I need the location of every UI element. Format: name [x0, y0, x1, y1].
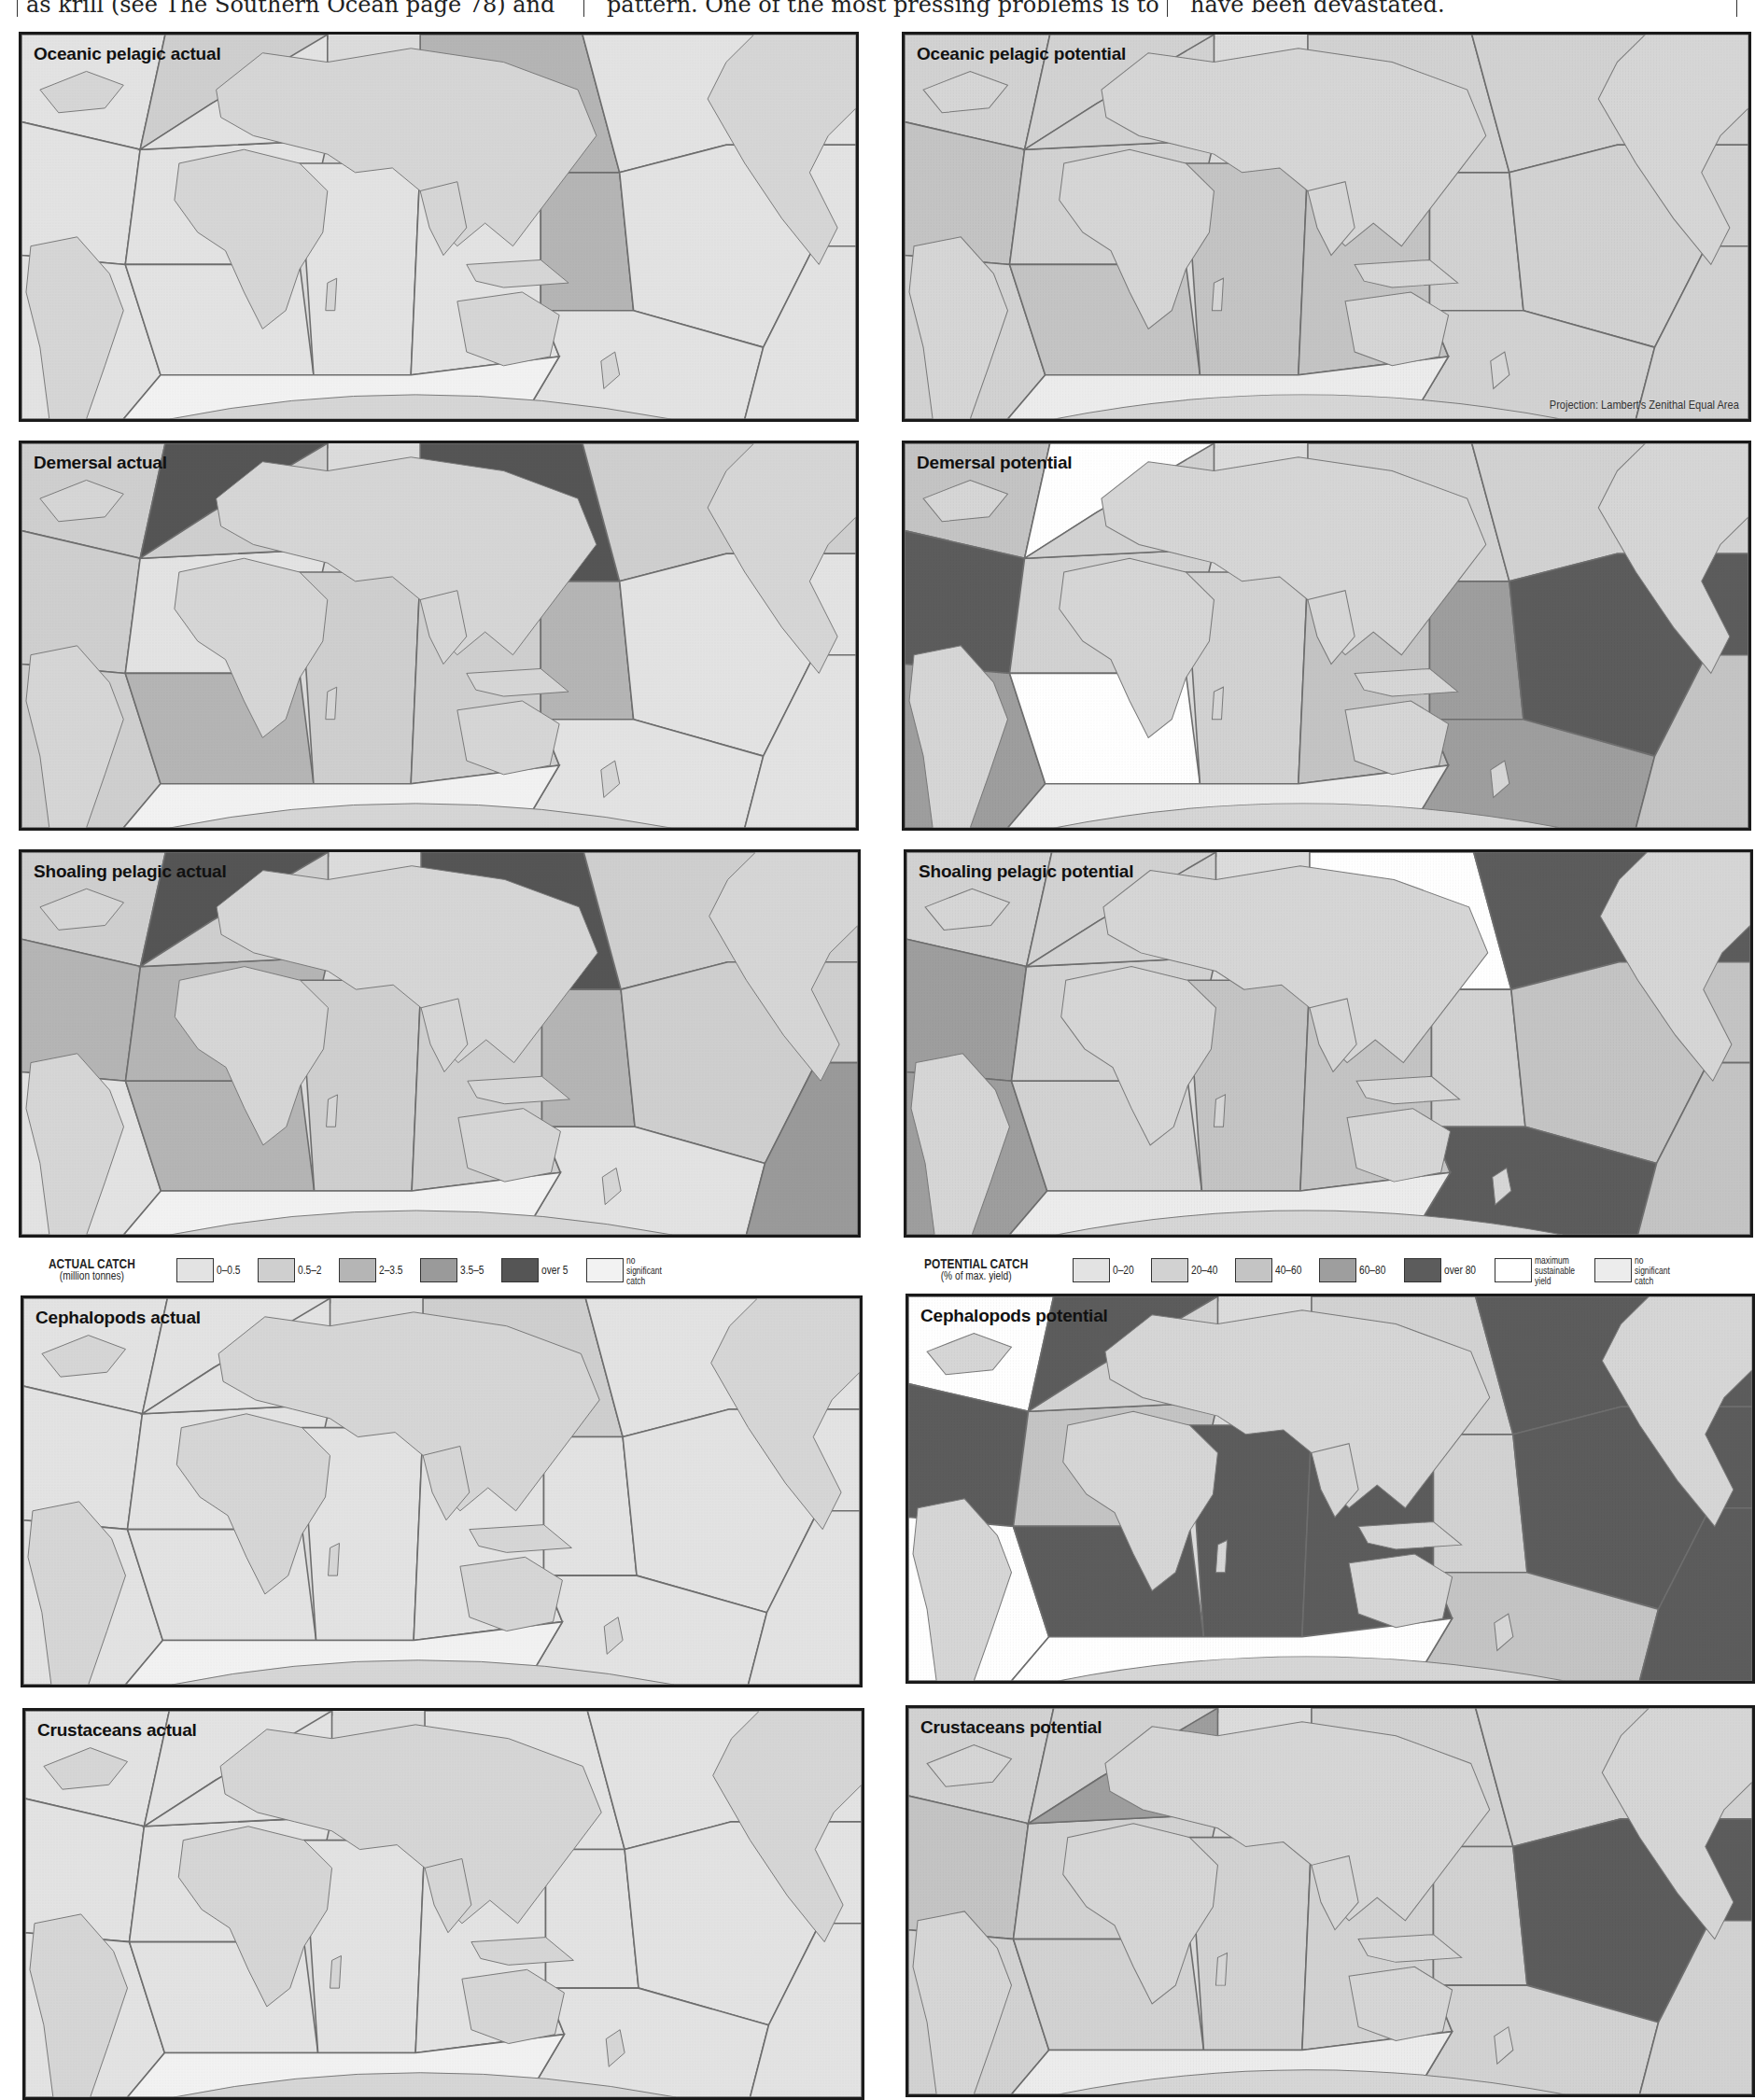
world-map [21, 852, 858, 1235]
world-map [23, 1298, 860, 1685]
halftone-texture [905, 443, 1748, 828]
legend-label: over 80 [1444, 1266, 1476, 1276]
panel-title: Shoaling pelagic potential [919, 861, 1133, 882]
text-column-1: as krill (see The Southern Ocean page 78… [26, 0, 555, 13]
legend-item: 40–60 [1235, 1258, 1306, 1282]
legend-swatch [1404, 1258, 1441, 1282]
legend-label: nosignificantcatch [1635, 1255, 1670, 1286]
legend-label: 0–20 [1113, 1266, 1134, 1276]
world-map [21, 443, 856, 828]
projection-note: Projection: Lambert's Zenithal Equal Are… [1550, 398, 1739, 412]
column-rule [17, 0, 18, 17]
map-panel-crustaceans-actual: Crustaceans actual [22, 1708, 864, 2100]
text-column-2: pattern. One of the most pressing proble… [607, 0, 1159, 13]
map-panel-crustaceans-potential: Crustaceans potential [906, 1705, 1755, 2097]
world-map [906, 852, 1750, 1235]
halftone-texture [23, 1298, 860, 1685]
world-map [21, 35, 856, 419]
legend-item: over 80 [1404, 1258, 1481, 1282]
world-map [908, 1296, 1752, 1681]
panel-title: Demersal actual [34, 453, 167, 473]
legend-subtitle-text: (% of max. yield) [941, 1270, 1012, 1282]
legend-item: maximumsustainableyield [1495, 1255, 1582, 1286]
legend-item: 3.5–5 [420, 1258, 488, 1282]
legend-item: nosignificantcatch [586, 1255, 667, 1286]
world-map [908, 1708, 1752, 2094]
legend-item: 20–40 [1151, 1258, 1222, 1282]
legend-item: nosignificantcatch [1594, 1255, 1676, 1286]
legend-label: 0.5–2 [298, 1266, 322, 1276]
map-panel-cephalopods-actual: Cephalopods actual [21, 1295, 863, 1687]
legend-title: POTENTIAL CATCH (% of max. yield) [924, 1258, 1028, 1282]
legend-swatch [1073, 1258, 1110, 1282]
legend-item: 2–3.5 [339, 1258, 407, 1282]
map-panel-shoaling-pelagic-potential: Shoaling pelagic potential [904, 849, 1753, 1238]
legend-item: 0–0.5 [176, 1258, 245, 1282]
halftone-texture [21, 35, 856, 419]
halftone-texture [25, 1711, 862, 2097]
halftone-texture [21, 852, 858, 1235]
column-rule [583, 0, 584, 17]
world-map [905, 35, 1748, 419]
map-panel-demersal-potential: Demersal potential [902, 441, 1751, 831]
map-panel-oceanic-pelagic-actual: Oceanic pelagic actual [19, 32, 859, 422]
legend-subtitle-text: (million tonnes) [60, 1270, 124, 1282]
halftone-texture [21, 443, 856, 828]
halftone-texture [908, 1708, 1752, 2094]
map-panel-oceanic-pelagic-potential: Oceanic pelagic potential Projection: La… [902, 32, 1751, 422]
panel-title: Crustaceans potential [920, 1717, 1102, 1738]
panel-title: Demersal potential [917, 453, 1072, 473]
legend-potential-catch: POTENTIAL CATCH (% of max. yield) 0–2020… [924, 1251, 1690, 1290]
map-panel-cephalopods-potential: Cephalopods potential [906, 1294, 1755, 1684]
legend-swatch [1594, 1258, 1632, 1282]
panel-title: Cephalopods actual [35, 1308, 201, 1328]
legend-label: maximumsustainableyield [1535, 1255, 1575, 1286]
column-rule [1736, 0, 1737, 17]
panel-title: Crustaceans actual [37, 1720, 197, 1741]
legend-swatch [501, 1258, 539, 1282]
map-panel-shoaling-pelagic-actual: Shoaling pelagic actual [19, 849, 861, 1238]
legend-label: 0–0.5 [217, 1266, 241, 1276]
halftone-texture [905, 35, 1748, 419]
panel-title: Oceanic pelagic actual [34, 44, 220, 64]
column-rule [1167, 0, 1168, 17]
body-text-fragment: as krill (see The Southern Ocean page 78… [0, 0, 1739, 21]
panel-title: Cephalopods potential [920, 1306, 1108, 1326]
world-map [25, 1711, 862, 2097]
halftone-texture [906, 852, 1750, 1235]
legend-swatch [420, 1258, 457, 1282]
legend-label: nosignificantcatch [626, 1255, 662, 1286]
legend-swatch [176, 1258, 214, 1282]
legend-swatch [1235, 1258, 1272, 1282]
world-map [905, 443, 1748, 828]
legend-swatch [586, 1258, 624, 1282]
legend-swatch [339, 1258, 376, 1282]
text-column-3: have been devastated. [1190, 0, 1445, 13]
legend-swatch [1495, 1258, 1532, 1282]
panel-title: Oceanic pelagic potential [917, 44, 1126, 64]
legend-swatch [1319, 1258, 1356, 1282]
legend-item: 0–20 [1073, 1258, 1138, 1282]
legend-label: 60–80 [1359, 1266, 1385, 1276]
legend-swatch [258, 1258, 295, 1282]
panel-title: Shoaling pelagic actual [34, 861, 227, 882]
legend-label: 20–40 [1191, 1266, 1217, 1276]
legend-item: 60–80 [1319, 1258, 1390, 1282]
halftone-texture [908, 1296, 1752, 1681]
legend-actual-catch: ACTUAL CATCH (million tonnes) 0–0.50.5–2… [49, 1251, 681, 1290]
map-panel-demersal-actual: Demersal actual [19, 441, 859, 831]
legend-item: over 5 [501, 1258, 572, 1282]
legend-swatch [1151, 1258, 1188, 1282]
legend-label: over 5 [541, 1266, 568, 1276]
legend-label: 3.5–5 [460, 1266, 484, 1276]
legend-item: 0.5–2 [258, 1258, 326, 1282]
legend-label: 2–3.5 [379, 1266, 403, 1276]
legend-title: ACTUAL CATCH (million tonnes) [49, 1258, 135, 1282]
legend-label: 40–60 [1275, 1266, 1301, 1276]
